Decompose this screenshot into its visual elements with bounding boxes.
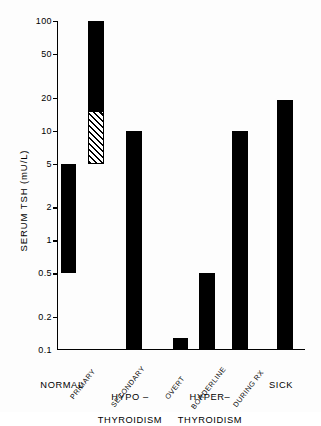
group-label-hyperthyroidism: HYPER– THYROIDISM bbox=[167, 380, 253, 426]
y-tick-5 bbox=[53, 164, 58, 165]
bar-sick bbox=[277, 100, 293, 350]
y-tick-100 bbox=[53, 21, 58, 22]
y-tick-label-5: 5 bbox=[47, 159, 52, 169]
y-tick-label-50: 50 bbox=[41, 49, 52, 59]
y-tick-0.2 bbox=[53, 317, 58, 318]
bar-normal bbox=[61, 164, 76, 274]
y-tick-label-0.1: 0.1 bbox=[38, 345, 52, 355]
group-label-hypothyroidism: HYPO – THYROIDISM bbox=[91, 380, 169, 426]
group-label-hyper-line2: THYROIDISM bbox=[178, 415, 242, 425]
y-tick-10 bbox=[53, 131, 58, 132]
y-tick-label-10: 10 bbox=[41, 126, 52, 136]
y-tick-label-100: 100 bbox=[36, 16, 52, 26]
y-tick-label-2: 2 bbox=[47, 202, 52, 212]
y-tick-0.5 bbox=[53, 273, 58, 274]
bar-primary-hatched bbox=[88, 111, 104, 163]
group-label-normal: NORMAL bbox=[33, 380, 91, 392]
bar-borderline bbox=[199, 273, 215, 350]
bar-secondary bbox=[126, 131, 142, 350]
y-axis-line bbox=[57, 21, 58, 350]
y-tick-label-20: 20 bbox=[41, 93, 52, 103]
y-axis-tick-labels: 100 50 20 10 5 2 1 0.5 0.2 0.1 bbox=[0, 21, 52, 350]
group-label-hypo-line1: HYPO – bbox=[111, 392, 149, 402]
plot-area bbox=[57, 21, 305, 350]
y-tick-label-0.5: 0.5 bbox=[38, 268, 52, 278]
bar-during-rx bbox=[232, 131, 248, 350]
group-label-sick: SICK bbox=[253, 380, 309, 392]
bar-overt bbox=[173, 338, 188, 350]
bar-primary-solid bbox=[88, 21, 104, 111]
group-label-hyper-line1: HYPER– bbox=[190, 392, 231, 402]
y-tick-50 bbox=[53, 54, 58, 55]
y-tick-label-1: 1 bbox=[47, 235, 52, 245]
y-tick-2 bbox=[53, 207, 58, 208]
y-tick-1 bbox=[53, 240, 58, 241]
group-label-hypo-line2: THYROIDISM bbox=[98, 415, 162, 425]
y-tick-label-0.2: 0.2 bbox=[38, 312, 52, 322]
y-tick-20 bbox=[53, 98, 58, 99]
